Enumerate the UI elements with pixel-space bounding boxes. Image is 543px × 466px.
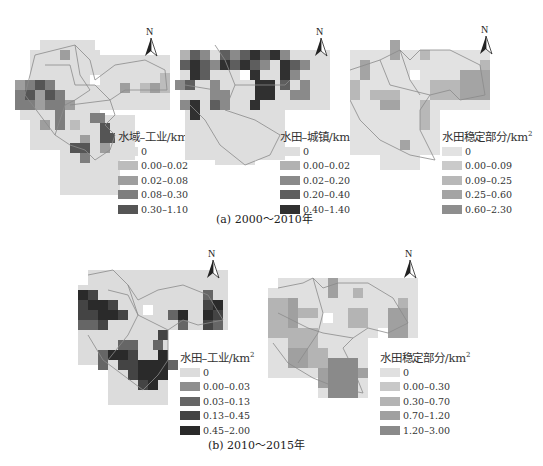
legend-item: 0.70–1.20 <box>380 409 470 424</box>
north-label: N <box>146 26 153 37</box>
legend-item: 0.00–0.30 <box>380 380 470 395</box>
north-arrow-icon <box>478 36 494 66</box>
legend-item: 0.03–0.13 <box>180 394 254 409</box>
legend-item: 0.30–0.70 <box>380 394 470 409</box>
north-arrow-a1: N <box>143 28 159 58</box>
legend-item: 1.20–3.00 <box>380 423 470 438</box>
north-arrow-b1: N <box>205 250 221 280</box>
legend-item: 0.60–2.30 <box>442 202 532 217</box>
legend-item: 0 <box>180 365 254 380</box>
caption-a: (a) 2000～2010年 <box>216 210 313 226</box>
legend-item: 0.30–1.10 <box>118 202 192 217</box>
legend-b2: 水田稳定部分/km2 0 0.00–0.30 0.30–0.70 0.70–1.… <box>380 349 470 438</box>
north-arrow-icon <box>313 38 329 68</box>
north-arrow-icon <box>402 260 418 290</box>
legend-item: 0.20–0.40 <box>280 188 354 203</box>
caption-b: (b) 2010～2015年 <box>208 436 305 452</box>
north-arrow-b2: N <box>402 250 418 280</box>
legend-item: 0.13–0.45 <box>180 409 254 424</box>
legend-item: 0.00–0.02 <box>280 159 354 174</box>
legend-item: 0.00–0.09 <box>442 159 532 174</box>
legend-a3: 水田稳定部分/km2 0 0.00–0.09 0.09–0.25 0.25–0.… <box>442 128 532 217</box>
legend-item: 0 <box>280 144 354 159</box>
legend-item: 0 <box>442 144 532 159</box>
north-arrow-icon <box>205 260 221 290</box>
legend-item: 0.02–0.08 <box>118 173 192 188</box>
legend-item: 0.02–0.20 <box>280 173 354 188</box>
legend-item: 0.09–0.25 <box>442 173 532 188</box>
north-arrow-icon <box>143 38 159 68</box>
legend-item: 0.25–0.60 <box>442 188 532 203</box>
legend-b1: 水田–工业/km2 0 0.00–0.03 0.03–0.13 0.13–0.4… <box>180 349 254 438</box>
north-arrow-a2: N <box>313 28 329 58</box>
legend-item: 0.08–0.30 <box>118 188 192 203</box>
north-arrow-a3: N <box>478 26 494 56</box>
legend-item: 0.00–0.03 <box>180 380 254 395</box>
legend-a2: 水田–城镇/km2 0 0.00–0.02 0.02–0.20 0.20–0.4… <box>280 128 354 217</box>
legend-item: 0 <box>380 365 470 380</box>
